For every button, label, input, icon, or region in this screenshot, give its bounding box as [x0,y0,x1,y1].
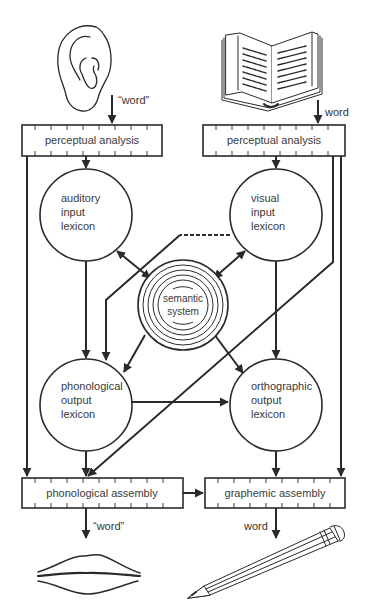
orthographic-output-lexicon-line2: output [251,394,282,406]
phonological-assembly-box: phonological assembly [22,478,183,508]
auditory-input-lexicon-line3: lexicon [61,220,95,232]
visual-input-lexicon-line1: visual [251,192,279,204]
graphemic-assembly-box: graphemic assembly [205,478,345,508]
speech-output-word: “word” [93,520,125,532]
phonological-output-lexicon-node: phonological output lexicon [40,359,132,451]
writing-output-word: word [243,520,268,532]
perceptual-analysis-visual-label: perceptual analysis [227,134,322,146]
semantic-system-line1: semantic [163,293,203,304]
phonological-output-lexicon-line2: output [61,394,92,406]
phonological-assembly-label: phonological assembly [46,487,158,499]
visual-input-word: word [324,106,349,118]
perceptual-analysis-visual-box: perceptual analysis [203,125,345,156]
edge-semantic-to-orth-output [214,334,243,373]
perceptual-analysis-auditory-box: perceptual analysis [22,125,162,156]
visual-input-lexicon-line2: input [251,206,275,218]
edge-semantic-to-phon-output [124,335,145,372]
visual-input-lexicon-node: visual input lexicon [230,169,322,261]
language-processing-diagram: “word” word [0,0,367,615]
semantic-system-line2: system [167,306,199,317]
auditory-input-lexicon-line1: auditory [61,192,101,204]
lips-icon [38,555,140,594]
auditory-input-word: “word” [118,94,150,106]
semantic-system-node: semantic system [138,260,228,350]
edge-vis-lexicon-semantic-bidir [214,251,245,278]
ear-icon [58,26,111,111]
auditory-input-lexicon-node: auditory input lexicon [40,169,132,261]
graphemic-assembly-label: graphemic assembly [225,487,326,499]
orthographic-output-lexicon-node: orthographic output lexicon [230,359,322,451]
phonological-output-lexicon-line1: phonological [61,380,123,392]
orthographic-output-lexicon-line1: orthographic [251,380,313,392]
visual-input-lexicon-line3: lexicon [251,220,285,232]
auditory-input-lexicon-line2: input [61,206,85,218]
open-book-icon [222,32,322,111]
orthographic-output-lexicon-line3: lexicon [251,408,285,420]
perceptual-analysis-auditory-label: perceptual analysis [45,134,140,146]
pencil-icon [188,526,345,598]
phonological-output-lexicon-line3: lexicon [61,408,95,420]
